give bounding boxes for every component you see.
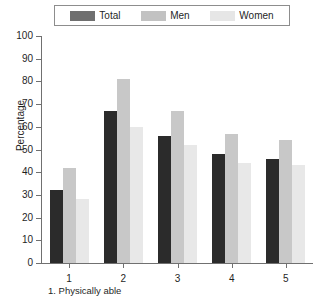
y-tick-label: 20 — [22, 212, 33, 223]
y-tick-mark — [36, 218, 41, 219]
legend-entry-women: Women — [210, 11, 273, 21]
bar-group-1 — [42, 36, 96, 263]
legend-swatch-women — [210, 11, 235, 21]
y-tick-label: 100 — [16, 30, 33, 41]
x-tick-mark-3 — [178, 264, 179, 268]
y-tick-label: 10 — [22, 234, 33, 245]
legend-swatch-men — [141, 11, 166, 21]
x-tick-mark-1 — [69, 264, 70, 268]
y-tick-mark — [36, 150, 41, 151]
legend-label-men: Men — [170, 11, 189, 21]
x-tick-mark-4 — [232, 264, 233, 268]
legend-label-women: Women — [239, 11, 273, 21]
y-tick-label: 60 — [22, 121, 33, 132]
bar-total-5 — [266, 159, 279, 263]
y-tick-mark — [36, 127, 41, 128]
y-tick-label: 0 — [27, 257, 33, 268]
y-tick-mark — [36, 240, 41, 241]
caption-line-1: 1. Physically able — [48, 286, 308, 297]
bar-men-5 — [279, 140, 292, 263]
legend-swatch-total — [70, 11, 95, 21]
x-tick-label-4: 4 — [217, 273, 247, 284]
chart-legend: TotalMenWomen — [54, 5, 290, 26]
bar-women-5 — [292, 165, 305, 263]
x-tick-mark-5 — [286, 264, 287, 268]
y-tick-label: 70 — [22, 98, 33, 109]
bar-group-4 — [205, 36, 259, 263]
y-tick-label: 50 — [22, 144, 33, 155]
bar-group-2 — [96, 36, 150, 263]
chart-caption: 1. Physically able — [48, 286, 308, 297]
y-tick-label: 30 — [22, 189, 33, 200]
y-tick-label: 80 — [22, 75, 33, 86]
x-tick-label-3: 3 — [163, 273, 193, 284]
bar-men-2 — [117, 79, 130, 263]
bar-men-3 — [171, 111, 184, 263]
legend-entry-men: Men — [141, 11, 189, 21]
bar-total-3 — [158, 136, 171, 263]
bar-women-1 — [76, 199, 89, 263]
axis-area: 0102030405060708090100 12345 — [41, 36, 313, 264]
x-tick-label-1: 1 — [54, 273, 84, 284]
y-tick-mark — [36, 263, 41, 264]
y-tick-mark — [36, 59, 41, 60]
plot-area: Percentage 0102030405060708090100 12345 — [0, 28, 315, 276]
bar-women-2 — [130, 127, 143, 263]
x-tick-mark-2 — [123, 264, 124, 268]
bar-total-2 — [104, 111, 117, 263]
y-tick-mark — [36, 104, 41, 105]
bar-women-3 — [184, 145, 197, 263]
bar-women-4 — [238, 163, 251, 263]
legend-label-total: Total — [99, 11, 120, 21]
y-tick-mark — [36, 195, 41, 196]
bar-total-4 — [212, 154, 225, 263]
y-tick-label: 40 — [22, 166, 33, 177]
y-tick-mark — [36, 81, 41, 82]
bar-group-3 — [150, 36, 204, 263]
bar-group-5 — [259, 36, 313, 263]
bar-men-4 — [225, 134, 238, 263]
x-tick-label-2: 2 — [108, 273, 138, 284]
bar-groups — [42, 36, 313, 263]
legend-entry-total: Total — [70, 11, 120, 21]
y-tick-mark — [36, 36, 41, 37]
y-tick-mark — [36, 172, 41, 173]
bar-total-1 — [50, 190, 63, 263]
y-tick-label: 90 — [22, 53, 33, 64]
bar-men-1 — [63, 168, 76, 263]
x-tick-label-5: 5 — [271, 273, 301, 284]
